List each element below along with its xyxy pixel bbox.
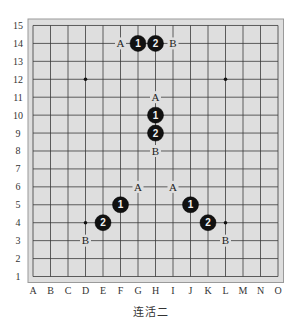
point-mark-a: A — [115, 37, 126, 49]
column-label: A — [29, 285, 37, 296]
svg-text:A: A — [117, 37, 125, 49]
row-label: 2 — [16, 253, 21, 264]
row-label: 13 — [13, 56, 23, 67]
star-point — [84, 77, 88, 81]
svg-text:2: 2 — [153, 128, 159, 139]
row-label: 9 — [16, 128, 21, 139]
row-label: 11 — [13, 92, 23, 103]
column-label: O — [274, 285, 281, 296]
column-label: K — [204, 285, 212, 296]
svg-text:B: B — [169, 37, 176, 49]
row-label: 5 — [16, 199, 21, 210]
row-label: 15 — [13, 20, 23, 31]
black-stone: 2 — [148, 125, 164, 141]
column-label: I — [171, 285, 174, 296]
black-stone: 2 — [148, 35, 164, 51]
row-label: 4 — [16, 217, 21, 228]
svg-text:1: 1 — [118, 199, 124, 210]
black-stone: 2 — [200, 215, 216, 231]
svg-text:1: 1 — [135, 38, 141, 49]
point-mark-b: B — [220, 234, 231, 246]
row-label: 1 — [16, 271, 21, 282]
black-stone: 2 — [95, 215, 111, 231]
svg-text:B: B — [222, 234, 229, 246]
column-label: L — [222, 285, 228, 296]
row-label: 6 — [16, 181, 21, 192]
go-board: 123456789101112131415ABCDEFGHIJKLMNOABAB… — [0, 0, 302, 300]
svg-text:B: B — [82, 234, 89, 246]
black-stone: 1 — [130, 35, 146, 51]
svg-text:A: A — [152, 91, 160, 103]
point-mark-b: B — [150, 145, 161, 157]
svg-text:1: 1 — [188, 199, 194, 210]
column-label: H — [152, 285, 159, 296]
row-label: 14 — [13, 38, 23, 49]
point-mark-b: B — [80, 234, 91, 246]
column-label: F — [118, 285, 124, 296]
point-mark-a: A — [133, 181, 144, 193]
column-label: G — [134, 285, 141, 296]
svg-text:A: A — [169, 181, 177, 193]
star-point — [224, 221, 228, 225]
column-label: B — [47, 285, 54, 296]
row-label: 3 — [16, 235, 21, 246]
column-label: M — [239, 285, 248, 296]
black-stone: 1 — [148, 107, 164, 123]
svg-text:A: A — [134, 181, 142, 193]
column-label: J — [189, 285, 193, 296]
column-label: D — [82, 285, 89, 296]
svg-text:2: 2 — [153, 38, 159, 49]
row-label: 8 — [16, 145, 21, 156]
point-mark-b: B — [168, 37, 179, 49]
svg-text:1: 1 — [153, 110, 159, 121]
column-label: C — [65, 285, 72, 296]
point-mark-a: A — [168, 181, 179, 193]
column-label: N — [257, 285, 264, 296]
svg-text:2: 2 — [100, 217, 106, 228]
svg-text:2: 2 — [205, 217, 211, 228]
diagram-caption: 连活二 — [0, 303, 302, 319]
point-mark-a: A — [150, 91, 161, 103]
row-label: 12 — [13, 74, 23, 85]
black-stone: 1 — [113, 197, 129, 213]
black-stone: 1 — [183, 197, 199, 213]
star-point — [224, 77, 228, 81]
row-label: 7 — [16, 163, 21, 174]
column-label: E — [100, 285, 106, 296]
row-label: 10 — [13, 110, 23, 121]
svg-text:B: B — [152, 145, 159, 157]
star-point — [84, 221, 88, 225]
